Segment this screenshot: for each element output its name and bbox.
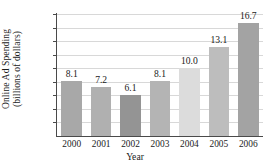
bar bbox=[91, 87, 112, 136]
y-axis-title-line-1: Online Ad Spending bbox=[0, 9, 11, 129]
bar bbox=[61, 81, 82, 136]
y-axis-title-line-2: (billions of dollars) bbox=[11, 9, 22, 129]
x-tick-label: 2005 bbox=[204, 140, 233, 149]
x-axis-line bbox=[56, 136, 263, 137]
bar bbox=[209, 47, 230, 136]
gridline bbox=[57, 28, 263, 29]
x-tick-label: 2003 bbox=[145, 140, 174, 149]
bar-value-label: 16.7 bbox=[230, 11, 267, 21]
plot-area: 8.17.26.18.110.013.116.7 bbox=[57, 14, 263, 136]
x-tick-label: 2000 bbox=[57, 140, 86, 149]
bar-value-label: 6.1 bbox=[112, 83, 149, 93]
x-tick-label: 2001 bbox=[86, 140, 115, 149]
x-tick-label: 2002 bbox=[116, 140, 145, 149]
bar bbox=[179, 68, 200, 136]
bar bbox=[150, 81, 171, 136]
bar-value-label: 13.1 bbox=[201, 35, 238, 45]
gridline bbox=[57, 55, 263, 56]
y-axis-title: Online Ad Spending (billions of dollars) bbox=[0, 9, 28, 129]
bar bbox=[238, 23, 259, 136]
x-axis-title: Year bbox=[0, 152, 270, 162]
x-tick-label: 2006 bbox=[234, 140, 263, 149]
bar-value-label: 8.1 bbox=[142, 69, 179, 79]
bar-value-label: 10.0 bbox=[171, 56, 208, 66]
x-tick-label: 2004 bbox=[175, 140, 204, 149]
bar bbox=[120, 95, 141, 136]
bar-chart: Online Ad Spending (billions of dollars)… bbox=[0, 0, 270, 167]
